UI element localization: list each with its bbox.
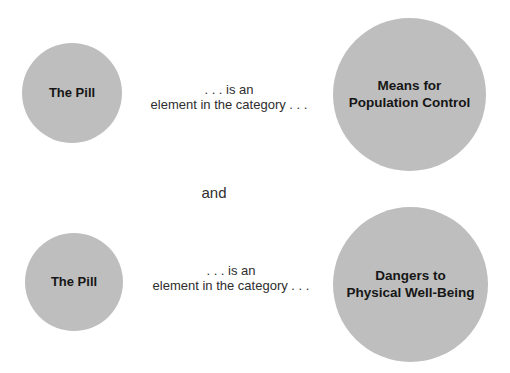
subject-label-1: The Pill	[49, 85, 95, 101]
relation-line-1b: element in the category . . .	[129, 97, 329, 112]
relation-line-2b: element in the category . . .	[131, 278, 331, 293]
subject-circle-2: The Pill	[25, 233, 123, 331]
subject-circle-1: The Pill	[22, 43, 122, 143]
relation-text-1: . . . is an element in the category . . …	[129, 82, 329, 112]
category-circle-1: Means for Population Control	[333, 18, 486, 171]
conjunction-text: and	[196, 184, 232, 201]
category-label-2: Dangers to Physical Well-Being	[346, 268, 474, 301]
relation-line-2a: . . . is an	[131, 263, 331, 278]
subject-label-2: The Pill	[51, 274, 97, 290]
category-label-1: Means for Population Control	[349, 78, 470, 111]
category-circle-2: Dangers to Physical Well-Being	[333, 207, 488, 362]
relation-line-1a: . . . is an	[129, 82, 329, 97]
relation-text-2: . . . is an element in the category . . …	[131, 263, 331, 293]
